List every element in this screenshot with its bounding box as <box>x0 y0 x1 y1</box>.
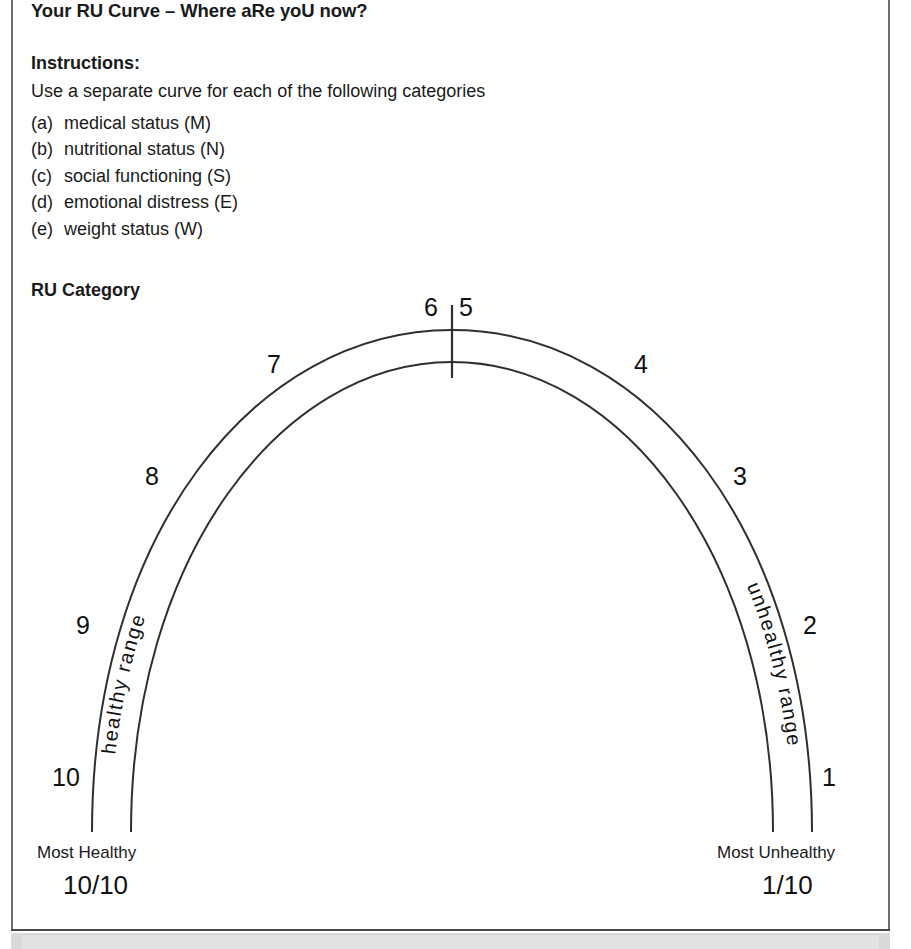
scale-point-1: 1 <box>822 763 836 792</box>
list-item: (b) nutritional status (N) <box>31 136 461 162</box>
list-item-label: social functioning (S) <box>64 163 231 189</box>
list-item: (d) emotional distress (E) <box>31 189 461 215</box>
list-item: (c) social functioning (S) <box>31 163 461 189</box>
footer-band-inner <box>22 935 879 949</box>
endpoint-caption-most-unhealthy: Most Unhealthy <box>717 843 835 863</box>
endpoint-caption-most-healthy: Most Healthy <box>37 843 136 863</box>
instructions-lead-text: Use a separate curve for each of the fol… <box>31 81 485 102</box>
scale-point-4: 4 <box>634 350 648 379</box>
category-list: (a) medical status (M) (b) nutritional s… <box>31 110 461 242</box>
healthy-range-label: healthy range <box>97 610 149 755</box>
endpoint-score-most-unhealthy: 1/10 <box>762 870 813 901</box>
page-title: Your RU Curve – Where aRe yoU now? <box>31 0 368 22</box>
scale-point-2: 2 <box>803 611 817 640</box>
scale-point-3: 3 <box>733 462 747 491</box>
scale-point-10: 10 <box>52 763 80 792</box>
scale-point-8: 8 <box>145 462 159 491</box>
scale-point-9: 9 <box>76 611 90 640</box>
list-item-label: weight status (W) <box>64 216 203 242</box>
endpoint-score-most-healthy: 10/10 <box>63 870 128 901</box>
list-item: (e) weight status (W) <box>31 216 461 242</box>
list-item-marker: (e) <box>31 216 64 242</box>
list-item-label: nutritional status (N) <box>64 136 225 162</box>
list-item-label: emotional distress (E) <box>64 189 238 215</box>
ru-curve-chart: healthy range unhealthy range <box>0 290 911 850</box>
list-item-marker: (c) <box>31 163 64 189</box>
worksheet-page: Your RU Curve – Where aRe yoU now? Instr… <box>0 0 911 949</box>
scale-point-6: 6 <box>424 293 438 322</box>
outer-arc-path <box>92 330 812 832</box>
list-item: (a) medical status (M) <box>31 110 461 136</box>
page-rule-bottom <box>11 929 890 931</box>
list-item-marker: (d) <box>31 189 64 215</box>
scale-point-5: 5 <box>459 293 473 322</box>
instructions-heading: Instructions: <box>31 53 140 74</box>
list-item-marker: (a) <box>31 110 64 136</box>
list-item-marker: (b) <box>31 136 64 162</box>
scale-point-7: 7 <box>267 350 281 379</box>
list-item-label: medical status (M) <box>64 110 211 136</box>
inner-arc-path <box>131 362 773 832</box>
